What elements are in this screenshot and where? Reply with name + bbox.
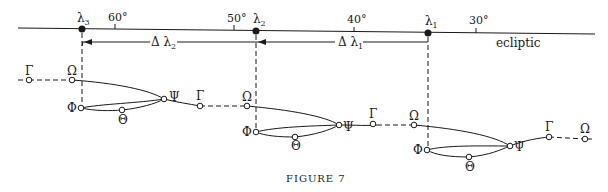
phi-node-1 xyxy=(78,105,84,111)
gamma-node-4 xyxy=(546,134,552,140)
omega-node-2 xyxy=(244,103,250,109)
figure-7-diagram: 60° 50° 40° 30° ecliptic λ3 λ2 λ1 Δ λ2 Δ… xyxy=(0,0,608,192)
tick-label-60: 60° xyxy=(108,11,128,24)
gamma-node-2 xyxy=(197,103,203,109)
lambda3-label: λ3 xyxy=(77,11,90,27)
omega-node-4 xyxy=(582,136,588,142)
phi-node-2 xyxy=(253,129,259,135)
theta-label-1: Θ xyxy=(118,113,128,127)
theta-node-3 xyxy=(466,154,472,160)
psi-node-2 xyxy=(336,122,342,128)
tick-label-50: 50° xyxy=(227,12,247,25)
ecliptic-line xyxy=(18,28,595,34)
lambda2-label: λ2 xyxy=(253,12,266,28)
omega-label-2: Ω xyxy=(242,90,252,104)
theta-label-2: Θ xyxy=(291,139,301,153)
gamma-node-1 xyxy=(26,77,32,83)
ecliptic-label: ecliptic xyxy=(496,36,541,50)
psi-label-2: Ψ xyxy=(343,120,354,134)
phi-node-3 xyxy=(424,147,430,153)
phi-label-3: Φ xyxy=(413,143,423,157)
gamma-node-3 xyxy=(370,121,376,127)
degree-ticks xyxy=(115,24,476,33)
lambda2-dot xyxy=(253,28,260,35)
psi-label-3: Ψ xyxy=(514,140,525,154)
psi-label-1: Ψ xyxy=(169,90,180,104)
phi-label-1: Φ xyxy=(67,101,77,115)
gamma-label-4: Γ xyxy=(545,120,553,134)
delta-lambda1-label: Δ λ1 xyxy=(338,35,363,51)
lambda1-dot xyxy=(425,30,432,37)
phi-label-2: Φ xyxy=(242,125,252,139)
orbit-nodes xyxy=(26,77,588,160)
omega-label-4: Ω xyxy=(580,122,590,136)
psi-node-1 xyxy=(161,96,167,102)
gamma-label-3: Γ xyxy=(369,107,377,121)
omega-node-1 xyxy=(69,77,75,83)
gamma-label-2: Γ xyxy=(196,89,204,103)
theta-label-3: Θ xyxy=(465,160,475,174)
gamma-label-1: Γ xyxy=(25,64,33,78)
figure-caption: FIGURE 7 xyxy=(286,173,346,184)
delta-lambda2-label: Δ λ2 xyxy=(151,35,176,51)
tick-label-40: 40° xyxy=(347,13,367,26)
theta-node-1 xyxy=(119,107,125,113)
orbit-path xyxy=(18,80,592,157)
omega-node-3 xyxy=(411,122,417,128)
psi-node-3 xyxy=(507,143,513,149)
omega-label-1: Ω xyxy=(67,64,77,78)
omega-label-3: Ω xyxy=(409,109,419,123)
tick-label-30: 30° xyxy=(469,14,489,27)
lambda1-label: λ1 xyxy=(425,14,438,30)
